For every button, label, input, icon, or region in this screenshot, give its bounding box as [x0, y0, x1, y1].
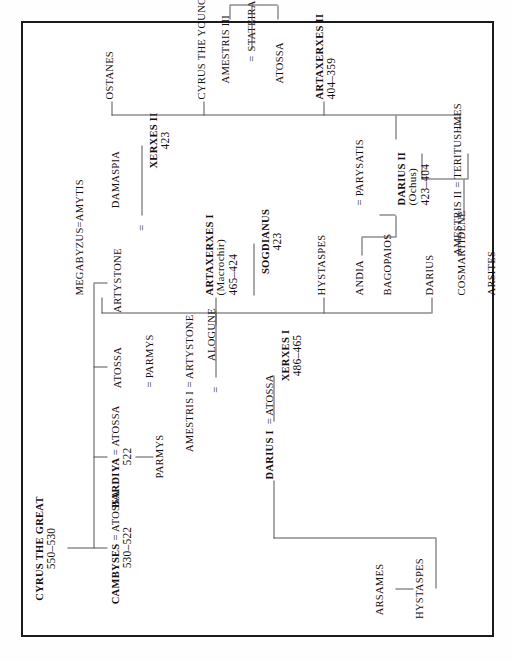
node-dates: 522: [120, 401, 132, 511]
node-label: ARSAMES: [373, 549, 384, 629]
node-epithet: (Ochus): [406, 85, 418, 205]
connector-cyrus-stem: [67, 547, 93, 548]
connector-andia-stem: [361, 237, 362, 255]
rotated-genealogy-canvas: CYRUS THE GREAT 550–530 CAMBYSES = ATOSS…: [23, 23, 492, 635]
node-eq-amestris: =: [209, 379, 220, 399]
node-label: ARTAXERXES I: [203, 175, 214, 295]
node-arsames: ARSAMES: [373, 549, 384, 629]
connector-darius-ii-stem: [395, 115, 396, 139]
node-label: = PARYSATIS: [353, 113, 364, 205]
connector-hystaspes-elbow-v: [273, 537, 436, 538]
connector-cyrus-child-atossa: [93, 366, 107, 367]
node-label: XERXES I: [279, 307, 290, 403]
diagram-page: CYRUS THE GREAT 550–530 CAMBYSES = ATOSS…: [0, 0, 512, 662]
node-ostanes: OSTANES: [103, 9, 114, 99]
connector-cyrus-child-cambyses: [93, 547, 107, 548]
connector-cosmartidene-stem: [463, 179, 464, 221]
node-label: = PARMYS: [143, 307, 154, 387]
node-dates: 550–530: [44, 483, 56, 613]
node-eq-stateira: =: [245, 49, 256, 67]
connector-xerxes-children-bar: [101, 312, 431, 313]
connector-child-darius-mid: [431, 297, 432, 313]
node-label: ARTYSTONE: [111, 237, 122, 323]
node-damaspia: DAMASPIA: [109, 139, 120, 219]
connector-child-cyrus-younger: [203, 101, 204, 115]
node-dates: 423–404: [418, 85, 430, 205]
node-alogune: ALOGUNE: [205, 297, 216, 371]
connector-cyrus-child-artystone: [93, 282, 107, 283]
node-darius-ii: DARIUS II (Ochus) 423–404: [395, 85, 431, 205]
node-label: OSTANES: [103, 9, 114, 99]
node-megabyzus-amytis: MEGABYZUS=AMYTIS: [73, 145, 84, 295]
connector-child-ostanes: [111, 101, 112, 115]
connector-bardiya-parmys: [135, 456, 153, 457]
node-arsites: ARSITES: [485, 219, 496, 295]
node-label: CYRUS THE GREAT: [33, 483, 44, 613]
node-label: =: [209, 379, 220, 399]
connector-cyrus-sibling-bar: [93, 283, 94, 548]
node-dates: 404–359: [324, 0, 336, 99]
node-eq-damaspia: =: [135, 217, 146, 237]
connector-child-artaxerxes-ii: [323, 101, 324, 115]
node-label: ARTAXERXES II: [313, 0, 324, 99]
node-cyrus-the-great: CYRUS THE GREAT 550–530: [33, 483, 57, 613]
node-eq-parmys: = PARMYS: [143, 307, 154, 387]
node-dates: 423: [270, 193, 282, 289]
node-amestris-ii: AMESTRIS II = TERITUSHMES: [451, 65, 462, 255]
connector-stateira-stem: [251, 5, 252, 49]
node-parmys-child: PARMYS: [153, 423, 164, 489]
node-label: ANDIA: [353, 235, 364, 295]
node-label: BAGOPAIOS: [381, 211, 392, 295]
node-label: ALOGUNE: [205, 297, 216, 371]
node-xerxes-i: XERXES I 486–465: [279, 307, 303, 403]
connector-sogdianus: [253, 243, 254, 295]
node-xerxes-ii: XERXES II 423: [147, 97, 171, 183]
connector-hystaspes-to-darius: [273, 480, 274, 538]
connector-artaxerxes-xerxes-ii: [141, 145, 142, 215]
node-artaxerxes-i: ARTAXERXES I (Macrochir) 465–424: [203, 175, 239, 295]
node-label: DARIUS II: [395, 85, 406, 205]
node-label: AMESTRIS III: [219, 0, 230, 83]
node-sogdianus: SOGDIANUS 423: [259, 193, 283, 289]
node-label: AMESTRIS I: [183, 375, 194, 467]
node-label: PARMYS: [153, 423, 164, 489]
connector-child-hystaspes-mid: [323, 297, 324, 313]
node-label: XERXES II: [147, 97, 158, 183]
node-label: HYSTASPES: [315, 205, 326, 295]
connector-child-megabyzus: [101, 297, 102, 313]
node-cyrus-the-younger: CYRUS THE YOUNGER: [195, 0, 206, 99]
node-dates: 486–465: [290, 307, 302, 403]
node-label: HYSTASPES: [413, 545, 424, 631]
node-label: =: [245, 49, 256, 67]
node-epithet: (Macrochir): [214, 175, 226, 295]
node-dates: 423: [158, 97, 170, 183]
node-label: ATOSSA: [273, 3, 284, 83]
node-label: DARIUS: [423, 219, 434, 295]
connector-cyrus-child-bardiya: [93, 456, 107, 457]
node-label: =: [135, 217, 146, 237]
node-bagopaios: BAGOPAIOS: [381, 211, 392, 295]
connector-stateira-children-bar: [229, 4, 277, 5]
connector-to-arsites: [467, 153, 468, 179]
node-amestris-iii: AMESTRIS III: [219, 0, 230, 83]
node-label: ARSITES: [485, 219, 496, 295]
connector-hystaspes-elbow-h: [435, 538, 436, 588]
node-dates: 465–424: [226, 175, 238, 295]
node-label: DAMASPIA: [109, 139, 120, 219]
node-eq-artystone: = ARTYSTONE: [183, 297, 194, 387]
node-artystone-daughter: ARTYSTONE: [111, 237, 122, 323]
connector-darius-xerxes: [273, 375, 274, 421]
node-label: BARDIYA = ATOSSA: [109, 401, 120, 511]
node-label: CYRUS THE YOUNGER: [195, 0, 206, 99]
connector-arsames-hystaspes: [395, 588, 413, 589]
node-amestris-i: AMESTRIS I: [183, 375, 194, 467]
node-artaxerxes-ii: ARTAXERXES II 404–359: [313, 0, 337, 99]
genealogy-canvas: CYRUS THE GREAT 550–530 CAMBYSES = ATOSS…: [23, 23, 492, 635]
node-label: = ARTYSTONE: [183, 297, 194, 387]
node-label: MEGABYZUS=AMYTIS: [73, 145, 84, 295]
node-atossa-daughter: ATOSSA: [111, 327, 122, 407]
node-label: SOGDIANUS: [259, 193, 270, 289]
node-darius-mid: DARIUS: [423, 219, 434, 295]
node-parysatis: = PARYSATIS: [353, 113, 364, 205]
diagram-frame: CYRUS THE GREAT 550–530 CAMBYSES = ATOSS…: [21, 21, 494, 637]
